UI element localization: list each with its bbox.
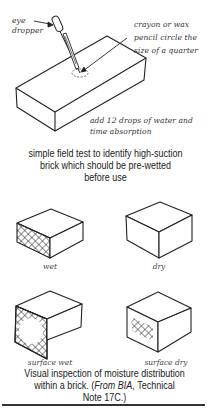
brick-dry [126, 202, 192, 258]
brick-wet [17, 209, 83, 258]
crayon-label-line: pencil circle the [134, 31, 198, 44]
drops-label-line: time absorption [90, 126, 193, 137]
illustration [0, 0, 207, 415]
top-figure-caption: simple field test to identify high-sucti… [12, 148, 198, 184]
caption-line: before use [12, 172, 198, 184]
crayon-label-line: size of a quarter [134, 44, 198, 57]
crayon-label-line: crayon or wax [134, 18, 198, 31]
brick-surface-dry [127, 292, 191, 352]
caption-line: simple field test to identify high-sucti… [12, 148, 198, 160]
caption-text: within a brick. ( [34, 380, 94, 391]
brick-label-wet: wet [25, 262, 75, 271]
caption-line: brick which should be pre-wetted [12, 160, 198, 172]
bottom-figure-caption: Visual inspection of moisture distributi… [11, 368, 197, 404]
brick-label-surface-wet: surface wet [14, 358, 86, 367]
drops-label-line: add 12 drops of water and [90, 115, 193, 126]
caption-text: , Technical [132, 380, 174, 391]
brick-label-dry: dry [134, 262, 184, 271]
brick-label-surface-dry: surface dry [130, 358, 202, 367]
eye-dropper-label: eye dropper [12, 16, 43, 36]
caption-line: Visual inspection of moisture distributi… [11, 368, 197, 380]
drops-label: add 12 drops of water and time absorptio… [90, 115, 193, 137]
crayon-circle-label: crayon or wax pencil circle the size of … [134, 18, 198, 57]
caption-source: From BIA [94, 380, 132, 391]
eye-dropper-label-line: eye [12, 16, 43, 26]
divider [2, 404, 205, 406]
caption-line: Note 17C.) [11, 392, 197, 404]
caption-line: within a brick. (From BIA, Technical [11, 380, 197, 392]
eye-dropper-label-line: dropper [12, 26, 43, 36]
brick-surface-wet [15, 291, 82, 359]
